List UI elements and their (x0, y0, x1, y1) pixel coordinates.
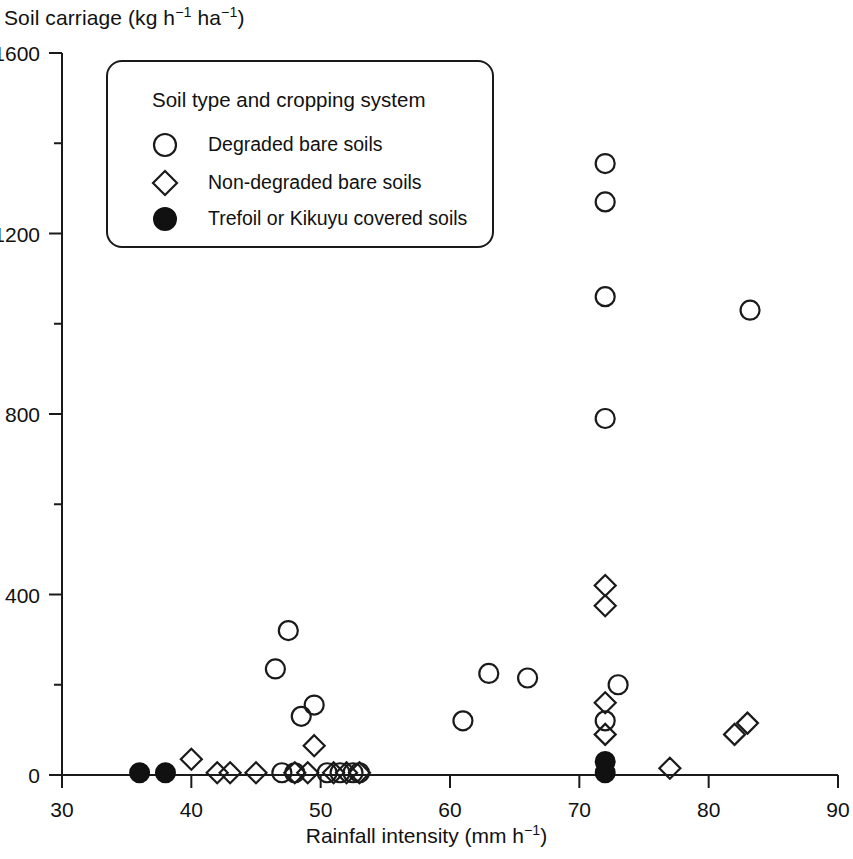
marker-open-diamond (595, 595, 616, 616)
x-axis-title: Rainfall intensity (mm h−1) (0, 824, 853, 848)
marker-filled-circle (156, 763, 175, 782)
y-tick-label: 400 (5, 584, 40, 607)
legend: Soil type and cropping system Degraded b… (106, 60, 494, 248)
data-markers (130, 154, 759, 783)
x-tick-label: 40 (180, 798, 203, 821)
x-tick-label: 80 (697, 798, 720, 821)
marker-open-circle (518, 668, 537, 687)
marker-open-circle (279, 621, 298, 640)
marker-open-diamond (595, 692, 616, 713)
marker-filled-circle (130, 763, 149, 782)
series-1 (266, 154, 760, 782)
y-tick-label: 0 (28, 764, 40, 787)
marker-open-diamond (246, 762, 267, 783)
x-axis-title-pre: Rainfall intensity (mm h (306, 824, 524, 847)
marker-open-circle (596, 154, 615, 173)
legend-label-0: Degraded bare soils (208, 133, 383, 156)
x-tick-label: 60 (438, 798, 461, 821)
marker-open-circle (305, 696, 324, 715)
x-tick-label: 30 (50, 798, 73, 821)
series-2 (181, 575, 758, 783)
x-tick-label: 50 (309, 798, 332, 821)
figure-scatter-plot: Soil carriage (kg h−1 ha−1) 304050607080… (0, 0, 853, 859)
marker-open-circle (609, 675, 628, 694)
marker-open-diamond (220, 762, 241, 783)
legend-entry-degraded-bare-soils: Degraded bare soils (108, 128, 492, 162)
x-tick-label: 70 (568, 798, 591, 821)
series-3 (130, 752, 615, 782)
legend-entry-trefoil-kikuyu-covered-soils: Trefoil or Kikuyu covered soils (108, 202, 492, 236)
marker-open-diamond (595, 575, 616, 596)
y-tick-label: 1200 (0, 223, 40, 246)
marker-open-circle (596, 192, 615, 211)
marker-open-circle (741, 301, 760, 320)
marker-open-circle (266, 659, 285, 678)
filled-circle-icon (148, 202, 182, 236)
y-tick-label: 800 (5, 403, 40, 426)
open-diamond-icon (148, 166, 182, 200)
marker-open-circle (453, 711, 472, 730)
marker-open-circle (292, 707, 311, 726)
x-axis-title-post: ) (540, 824, 547, 847)
y-tick-label: 1600 (0, 42, 40, 65)
x-axis-title-exponent: −1 (524, 822, 540, 838)
legend-entry-non-degraded-bare-soils: Non-degraded bare soils (108, 166, 492, 200)
marker-open-diamond (207, 762, 228, 783)
x-tick-label: 90 (826, 798, 849, 821)
marker-open-circle (596, 409, 615, 428)
marker-open-diamond (181, 749, 202, 770)
legend-title: Soil type and cropping system (152, 88, 425, 112)
marker-open-circle (285, 763, 304, 782)
legend-label-1: Non-degraded bare soils (208, 171, 422, 194)
marker-filled-circle (596, 763, 615, 782)
open-circle-icon (148, 128, 182, 162)
marker-open-circle (479, 664, 498, 683)
marker-open-diamond (304, 735, 325, 756)
marker-open-circle (596, 287, 615, 306)
legend-label-2: Trefoil or Kikuyu covered soils (208, 207, 467, 230)
